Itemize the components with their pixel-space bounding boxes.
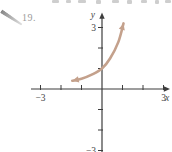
x-axis-arrow [164,86,170,91]
y-axis-arrow [99,13,104,19]
x-tick-label: −3 [35,93,45,103]
y-tick-label: 3 [91,23,96,33]
function-graph: −333−3xy [0,0,172,152]
y-tick-label: −3 [86,146,96,152]
exponential-curve [72,23,123,80]
textbook-figure-page: 19. −333−3xy [0,0,172,152]
x-axis-label: x [164,93,170,103]
y-axis-label: y [90,10,96,20]
